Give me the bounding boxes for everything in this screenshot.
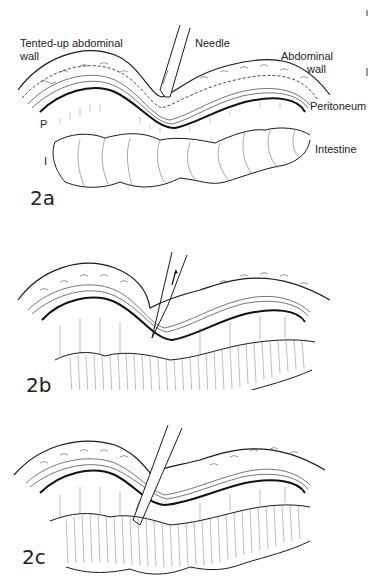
figure-label-2b: 2b [26, 373, 51, 397]
abdominal-wall-label-line2: wall [307, 63, 326, 75]
figure-label-2c: 2c [22, 545, 46, 569]
panel-2b: 2b [0, 210, 368, 390]
tented-wall-label-line2: wall [20, 50, 39, 62]
panel-2a: Tented-up abdominal wall Needle Abdomina… [0, 0, 368, 200]
needle-label: Needle [195, 37, 230, 49]
peritoneum-label: Peritoneum [310, 100, 366, 112]
intestine-label: Intestine [315, 143, 357, 155]
panel-2b-illustration [0, 210, 368, 390]
panel-2c: 2c [0, 395, 368, 578]
tented-wall-label: Tented-up abdominal [20, 37, 123, 49]
figure-label-2a: 2a [30, 186, 55, 210]
p-marker-label: P [40, 118, 47, 130]
abdominal-wall-label: Abdominal [281, 50, 333, 62]
i-marker-label: I [44, 155, 47, 167]
panel-2c-illustration [0, 395, 368, 578]
